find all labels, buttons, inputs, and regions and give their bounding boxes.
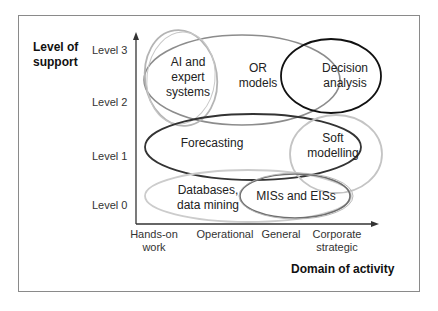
x-axis-arrow-icon <box>371 221 379 227</box>
x-axis-title: Domain of activity <box>291 262 394 277</box>
y-tick-level-2: Level 2 <box>92 96 127 109</box>
forecasting-label: Forecasting <box>181 136 244 151</box>
mis-eis-label: MISs and EISs <box>256 189 335 204</box>
soft-modelling-label: Soft modelling <box>307 131 358 161</box>
y-tick-level-3: Level 3 <box>92 44 127 57</box>
or-models-label: OR models <box>239 61 278 91</box>
ai-expert-label: AI and expert systems <box>166 55 210 100</box>
y-tick-level-0: Level 0 <box>92 199 127 212</box>
databases-label: Databases, data mining <box>177 183 239 213</box>
x-tick-operational: Operational <box>192 228 258 241</box>
decision-analysis-label: Decision analysis <box>322 61 368 91</box>
x-tick-corporate-strategic: Corporate strategic <box>306 228 368 254</box>
x-tick-general: General <box>258 228 304 241</box>
x-tick-hands-on: Hands-on work <box>128 228 180 254</box>
y-tick-level-1: Level 1 <box>92 150 127 163</box>
y-axis-title: Level of support <box>33 40 78 70</box>
y-axis-arrow-icon <box>133 32 139 40</box>
